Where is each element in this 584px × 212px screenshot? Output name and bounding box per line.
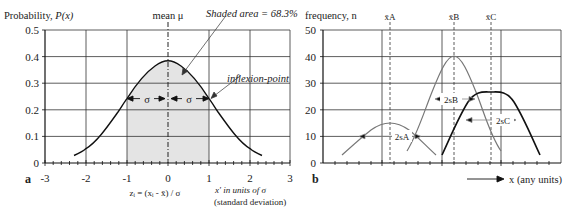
sigma-right-label: σ	[186, 94, 192, 105]
mean-label: mean μ	[153, 10, 184, 21]
mean-label-a: x̄A	[385, 12, 397, 22]
svg-text:0.4: 0.4	[25, 51, 39, 63]
panel-a: σ σ Probability, P(x) mean μ Shaded area…	[4, 8, 298, 207]
svg-text:30: 30	[305, 77, 317, 89]
y-tick-labels-a: 0.5 0.4 0.3 0.2 0.1 0	[25, 24, 39, 169]
x-direction-arrow	[467, 176, 504, 182]
svg-text:0.3: 0.3	[25, 77, 39, 89]
panel-label-a: a	[25, 172, 31, 186]
width-label-c: 2sC	[496, 116, 510, 126]
std-dev-label: (standard deviation)	[214, 197, 286, 207]
inflexion-point-label: inflexion-point	[227, 73, 290, 84]
svg-text:40: 40	[305, 51, 317, 63]
curve-a	[342, 123, 436, 155]
y-tick-labels-b: 50 40 30 20 10 0	[305, 24, 317, 169]
sigma-left-label: σ	[144, 94, 150, 105]
mean-label-c: x̄C	[486, 12, 497, 22]
svg-text:0: 0	[165, 172, 171, 184]
svg-text:3: 3	[287, 172, 293, 184]
x-units-label: x' in units of σ	[214, 185, 266, 195]
shaded-area-label: Shaded area = 68.3%	[206, 8, 298, 19]
x-tick-labels-a: -3 -2 -1 0 1 2 3	[40, 172, 293, 184]
svg-text:0: 0	[311, 157, 317, 169]
svg-text:0.2: 0.2	[25, 104, 39, 116]
svg-text:0.5: 0.5	[25, 24, 39, 36]
x-axis-label-b: x (any units)	[509, 174, 563, 186]
svg-text:2: 2	[247, 172, 253, 184]
svg-text:50: 50	[305, 24, 317, 36]
panel-b: 2sA 2sB 2sC frequency, n x̄A x̄B x̄C 50 …	[305, 10, 563, 186]
mean-label-b: x̄B	[449, 12, 460, 22]
width-label-b: 2sB	[444, 95, 458, 105]
panel-label-b: b	[312, 172, 319, 186]
y-axis-label-a: Probability, P(x)	[4, 10, 74, 22]
svg-text:-3: -3	[40, 172, 50, 184]
svg-text:20: 20	[305, 104, 317, 116]
svg-text:1: 1	[206, 172, 212, 184]
y-axis-label-b: frequency, n	[305, 10, 358, 21]
svg-text:-2: -2	[81, 172, 90, 184]
svg-text:0: 0	[34, 157, 40, 169]
z-formula: zᵢ = (xᵢ - x̄) / σ	[130, 188, 181, 198]
svg-text:0.1: 0.1	[25, 130, 39, 142]
svg-text:-1: -1	[122, 172, 131, 184]
figure: σ σ Probability, P(x) mean μ Shaded area…	[0, 0, 584, 212]
svg-text:10: 10	[305, 130, 317, 142]
width-label-a: 2sA	[395, 132, 410, 142]
